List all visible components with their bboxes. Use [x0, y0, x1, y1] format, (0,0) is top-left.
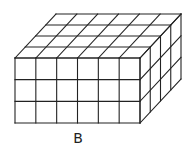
cube-prism-diagram — [0, 0, 191, 152]
figure-label: B — [68, 130, 88, 146]
